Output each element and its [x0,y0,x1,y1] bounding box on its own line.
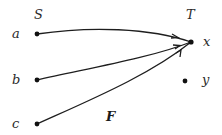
element-dot-c [35,122,40,127]
mapping-arrow-b-x [37,42,191,80]
element-label-c: c [12,116,20,131]
set-label-t: T [186,7,196,22]
element-dot-a [35,32,40,37]
arrowhead-c-x-icon [176,50,181,57]
element-label-a: a [12,26,20,41]
element-label-y: y [201,72,210,87]
set-label-s: S [34,7,43,22]
element-dot-b [35,78,40,83]
element-dot-y [183,79,188,84]
function-label-f: F [105,109,116,124]
element-label-b: b [12,72,20,87]
mapping-arrow-a-x [37,29,191,42]
function-diagram: S T a b c x y F [0,0,222,135]
element-dot-x [188,39,193,44]
element-label-x: x [203,34,211,49]
